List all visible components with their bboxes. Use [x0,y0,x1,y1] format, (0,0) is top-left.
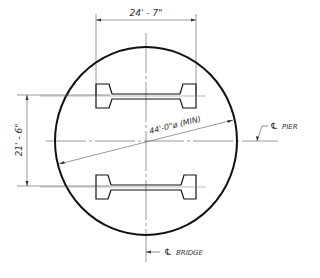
height-dimension-text: 21' - 6" [14,124,24,157]
bridge-centerline-label: ℄ BRIDGE [146,247,204,257]
pier-centerline-label: ℄ PIER [256,121,298,141]
height-dimension: 21' - 6" [14,95,110,186]
diameter-text: 44'-0"ø (MIN) [148,114,202,136]
pier-cl-symbol: ℄ [270,121,278,131]
pier-cl-text: PIER [282,123,298,131]
pier-drawing: 24' - 7" 21' - 6" 44'-0"ø (MIN) ℄ PIER [0,0,320,278]
width-dimension-text: 24' - 7" [130,8,163,18]
bridge-cl-symbol: ℄ [164,247,172,257]
bridge-cl-text: BRIDGE [176,249,204,257]
upper-girder [40,84,206,108]
lower-girder [40,175,206,199]
